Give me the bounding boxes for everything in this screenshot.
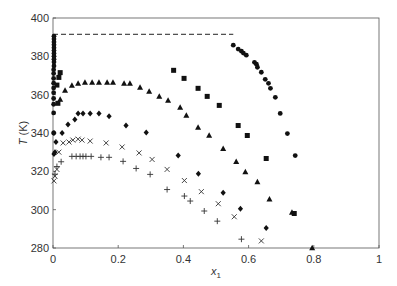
circle-marker (51, 96, 56, 101)
square-marker (56, 75, 61, 80)
circle-marker (51, 71, 56, 76)
circle-marker (51, 102, 56, 107)
y-axis-label: T (K) (17, 121, 29, 145)
y-tick-label: 340 (31, 127, 49, 139)
x-tick-label: 0.6 (241, 253, 256, 265)
y-tick-label: 300 (31, 204, 49, 216)
circle-marker (231, 43, 236, 48)
circle-marker (51, 90, 56, 95)
y-tick-label: 380 (31, 50, 49, 62)
chart: 00.20.40.60.81280300320340360380400 x1 T… (0, 0, 397, 286)
circle-marker (266, 81, 271, 86)
y-tick-label: 320 (31, 165, 49, 177)
plot-frame (53, 18, 379, 248)
square-marker (264, 156, 269, 161)
circle-marker (51, 76, 56, 81)
square-marker (205, 94, 210, 99)
circle-marker (255, 65, 260, 70)
x-tick-label: 0.8 (306, 253, 321, 265)
x-tick-label: 0 (50, 253, 56, 265)
square-marker (171, 68, 176, 73)
y-tick-label: 280 (31, 242, 49, 254)
x-axis-label: x1 (210, 265, 222, 280)
square-marker (196, 86, 201, 91)
square-marker (54, 83, 59, 88)
circle-marker (263, 77, 268, 82)
y-tick-label: 360 (31, 89, 49, 101)
square-marker (236, 123, 241, 128)
circle-marker (293, 153, 298, 158)
circle-marker (285, 131, 290, 136)
circle-marker (278, 111, 283, 116)
y-tick-label: 400 (31, 12, 49, 24)
square-marker (217, 103, 222, 108)
x-tick-label: 0.4 (176, 253, 191, 265)
circle-marker (51, 110, 56, 115)
circle-marker (273, 95, 278, 100)
square-marker (182, 76, 187, 81)
x-tick-label: 0.2 (111, 253, 126, 265)
x-tick-label: 1 (376, 253, 382, 265)
circle-marker (259, 70, 264, 75)
square-marker (245, 133, 250, 138)
square-marker (58, 70, 63, 75)
circle-marker (268, 86, 273, 91)
circle-marker (244, 53, 249, 58)
